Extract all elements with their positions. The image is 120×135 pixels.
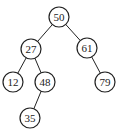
node-label: 48 [40,76,52,88]
node-label: 79 [100,76,112,88]
tree-node-35: 35 [20,108,40,128]
edge-n27-n12 [18,58,26,73]
binary-tree-diagram: 50276112487935 [0,0,120,135]
tree-node-27: 27 [21,39,41,59]
node-label: 12 [8,76,19,88]
edge-n50-n61 [66,24,81,40]
tree-node-79: 79 [95,72,115,92]
node-label: 61 [82,42,93,54]
node-label: 35 [25,112,37,124]
tree-node-50: 50 [49,7,69,27]
tree-node-48: 48 [35,72,55,92]
tree-node-61: 61 [77,38,97,58]
edge-n61-n79 [92,57,101,73]
node-label: 27 [26,43,38,55]
edge-n27-n48 [35,58,41,73]
edge-n50-n27 [38,25,53,42]
tree-nodes: 50276112487935 [3,7,115,128]
edge-n48-n35 [34,91,41,109]
tree-edges [18,24,101,108]
tree-node-12: 12 [3,72,23,92]
node-label: 50 [54,11,66,23]
